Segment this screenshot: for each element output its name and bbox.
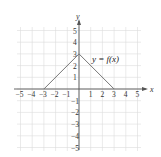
- x-tick-label: 4: [124, 90, 128, 99]
- x-tick-label: −1: [62, 90, 70, 99]
- y-tick-label: −4: [71, 132, 79, 141]
- x-tick-label: −3: [39, 90, 47, 99]
- y-tick-label: 1: [73, 73, 77, 82]
- x-axis-label: x: [149, 85, 154, 94]
- x-tick-label: −4: [27, 90, 35, 99]
- y-tick-label: 4: [73, 38, 77, 47]
- function-label: y = f(x): [91, 54, 119, 64]
- y-tick-label: −3: [71, 120, 79, 129]
- tick-labels: −5−4−3−2−11234554321−1−2−3−4−5: [16, 27, 140, 153]
- y-axis-label: y: [75, 12, 80, 21]
- y-tick-label: −2: [71, 108, 79, 117]
- graph: −5−4−3−2−11234554321−1−2−3−4−5 x y y = f…: [0, 0, 161, 157]
- y-tick-label: −5: [71, 144, 79, 153]
- x-axis-arrow-icon: [142, 87, 148, 91]
- axes: [14, 19, 148, 150]
- x-tick-label: −2: [51, 90, 59, 99]
- y-tick-label: 2: [73, 62, 77, 71]
- x-tick-label: 3: [112, 90, 116, 99]
- x-tick-label: −5: [16, 90, 24, 99]
- x-tick-label: 5: [136, 90, 140, 99]
- x-tick-label: 2: [100, 90, 104, 99]
- y-tick-label: −1: [71, 97, 79, 106]
- y-tick-label: 5: [73, 27, 77, 36]
- x-tick-label: 1: [89, 90, 93, 99]
